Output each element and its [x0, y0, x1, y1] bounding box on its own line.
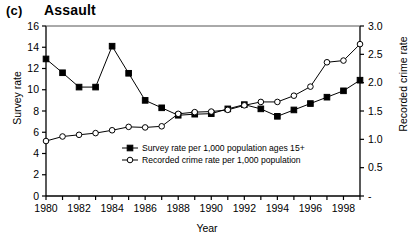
y-tick-label-left: 14 — [27, 41, 39, 53]
y-tick-label-right: 1.0 — [368, 133, 383, 145]
y-tick-label-right: - — [368, 190, 372, 202]
data-point-circle — [324, 59, 330, 65]
data-point-circle — [258, 99, 264, 105]
data-point-circle — [76, 132, 82, 138]
data-point-circle — [93, 130, 99, 136]
data-point-circle — [208, 109, 214, 115]
data-point-circle — [142, 125, 148, 131]
x-tick-label: 1998 — [332, 202, 356, 214]
data-point-circle — [175, 111, 181, 117]
data-point-square — [291, 107, 297, 113]
data-point-circle — [308, 84, 314, 90]
data-point-circle — [43, 138, 49, 144]
y-tick-label-right: 1.5 — [368, 105, 383, 117]
legend-marker-square — [127, 145, 133, 151]
assault-chart-panel: (c) Assault Survey rate Recorded crime r… — [0, 0, 414, 240]
series-line-1 — [46, 44, 360, 141]
x-tick-label: 1984 — [100, 202, 124, 214]
data-point-square — [159, 105, 165, 111]
y-tick-label-left: 4 — [33, 147, 39, 159]
data-point-circle — [291, 93, 297, 99]
x-tick-label: 1994 — [266, 202, 290, 214]
x-tick-label: 1988 — [167, 202, 191, 214]
y-tick-label-right: 2.0 — [368, 76, 383, 88]
data-point-square — [93, 84, 99, 90]
x-tick-label: 1992 — [233, 202, 257, 214]
x-tick-label: 1996 — [299, 202, 323, 214]
data-point-square — [142, 98, 148, 104]
data-point-circle — [109, 127, 115, 133]
y-tick-label-left: 10 — [27, 83, 39, 95]
data-point-circle — [242, 103, 248, 109]
data-point-square — [341, 88, 347, 94]
data-point-square — [275, 114, 281, 120]
data-point-circle — [275, 99, 281, 105]
data-point-square — [60, 70, 66, 76]
plot-area: 0246810121416-0.51.01.52.02.53.019801982… — [0, 0, 414, 240]
legend-label-1: Recorded crime rate per 1,000 population — [142, 155, 301, 165]
data-point-square — [126, 70, 132, 76]
y-tick-label-left: 0 — [33, 190, 39, 202]
x-tick-label: 1982 — [67, 202, 91, 214]
data-point-circle — [357, 41, 363, 47]
legend-marker-circle — [127, 157, 133, 163]
x-tick-label: 1980 — [34, 202, 58, 214]
data-point-circle — [225, 107, 231, 113]
y-tick-label-left: 8 — [33, 105, 39, 117]
data-point-circle — [341, 58, 347, 64]
y-tick-label-left: 2 — [33, 168, 39, 180]
data-point-circle — [192, 109, 198, 115]
y-tick-label-left: 16 — [27, 20, 39, 32]
data-point-square — [308, 101, 314, 107]
y-tick-label-right: 3.0 — [368, 20, 383, 32]
data-point-circle — [159, 124, 165, 130]
y-tick-label-right: 0.5 — [368, 161, 383, 173]
y-tick-label-right: 2.5 — [368, 48, 383, 60]
data-point-square — [258, 106, 264, 112]
data-point-square — [324, 94, 330, 100]
y-tick-label-left: 6 — [33, 126, 39, 138]
data-point-square — [357, 77, 363, 83]
y-tick-label-left: 12 — [27, 62, 39, 74]
data-point-square — [43, 56, 49, 62]
data-point-circle — [126, 124, 132, 130]
x-tick-label: 1990 — [200, 202, 224, 214]
legend-label-0: Survey rate per 1,000 population ages 15… — [142, 143, 305, 153]
data-point-circle — [60, 134, 66, 140]
data-point-square — [109, 43, 115, 49]
data-point-square — [76, 84, 82, 90]
x-tick-label: 1986 — [133, 202, 157, 214]
